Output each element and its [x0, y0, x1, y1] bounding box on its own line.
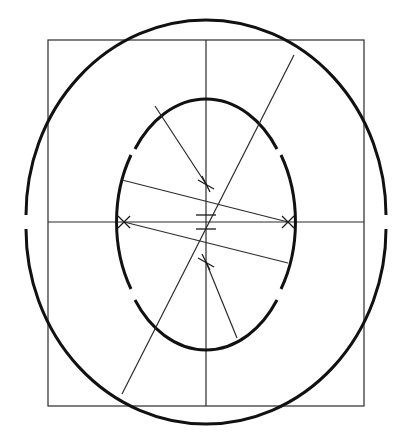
letter-o-construction-diagram — [0, 0, 412, 444]
upper-left-radial-line — [155, 106, 206, 184]
upper-transverse-line — [122, 180, 288, 222]
lower-right-radial-line — [206, 262, 237, 338]
main-stress-diagonal — [122, 55, 294, 394]
